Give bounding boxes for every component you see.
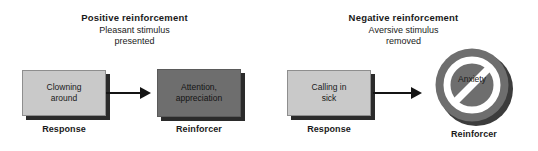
prohibition-sign-label: Anxiety xyxy=(435,74,509,84)
reinforcer-prohibition-sign-negative: Anxiety xyxy=(435,48,513,126)
response-box-positive: Clowning around xyxy=(22,70,106,116)
arrow-line-positive xyxy=(106,92,144,94)
arrow-line-negative xyxy=(373,92,415,94)
prohibition-sign-icon xyxy=(435,48,509,122)
reinforcer-caption-negative: Reinforcer xyxy=(430,129,518,139)
panel-subheading-negative: Aversive stimulus removed xyxy=(269,25,538,48)
panel-negative-reinforcement: Negative reinforcement Aversive stimulus… xyxy=(269,0,538,151)
reinforcer-box-positive: Attention, appreciation xyxy=(157,69,241,117)
panel-positive-reinforcement: Positive reinforcement Pleasant stimulus… xyxy=(0,0,269,151)
response-box-negative: Calling in sick xyxy=(287,70,371,116)
panel-subheading-positive: Pleasant stimulus presented xyxy=(0,25,269,48)
panel-heading-negative: Negative reinforcement xyxy=(269,13,538,24)
reinforcer-caption-positive: Reinforcer xyxy=(157,124,241,134)
arrow-head-negative xyxy=(411,87,422,99)
response-caption-positive: Response xyxy=(22,124,106,134)
arrow-head-positive xyxy=(140,87,151,99)
response-caption-negative: Response xyxy=(287,124,371,134)
panel-heading-positive: Positive reinforcement xyxy=(0,13,269,24)
